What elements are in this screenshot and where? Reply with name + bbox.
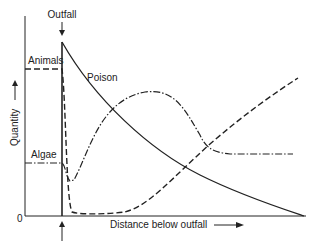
poison-label: Poison <box>87 72 118 83</box>
y-axis-label: Quantity <box>9 109 20 146</box>
animals-curve <box>25 69 298 214</box>
algae-label: Algae <box>31 149 57 160</box>
x-axis-arrow-icon <box>214 222 244 228</box>
animals-label: Animals <box>28 55 64 66</box>
outfall-label: Outfall <box>48 9 77 20</box>
origin-label: 0 <box>17 213 23 224</box>
outfall-bottom-arrow-icon <box>59 221 65 241</box>
x-axis-label: Distance below outfall <box>110 219 207 230</box>
pollution-diagram: Outfall Animals Poison Algae 0 Distance … <box>0 0 314 241</box>
y-axis-arrow-icon <box>12 80 18 100</box>
outfall-arrow-icon <box>59 22 65 36</box>
